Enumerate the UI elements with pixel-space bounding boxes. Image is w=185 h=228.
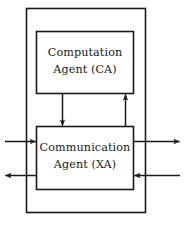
block-diagram: Computation Agent (CA) Communication Age… [0, 0, 185, 228]
diagram-canvas [0, 0, 185, 228]
communication-agent-block[interactable] [37, 127, 134, 190]
computation-agent-block[interactable] [37, 32, 134, 94]
